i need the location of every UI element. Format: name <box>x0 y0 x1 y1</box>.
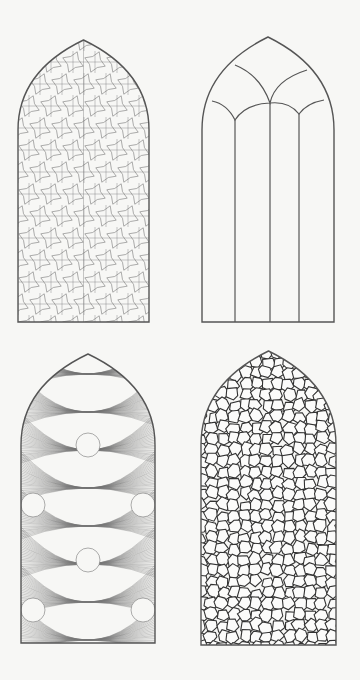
panel-geometric-tracery <box>0 0 180 340</box>
pointed-arch-window-interlaced-pattern <box>0 340 180 680</box>
panel-voronoi-glass <box>180 340 360 680</box>
pointed-arch-window-star-pattern <box>0 0 180 340</box>
window-outline <box>202 37 334 322</box>
panel-gothic-lancet <box>180 0 360 340</box>
pointed-arch-window-mullions <box>180 0 360 340</box>
panel-interlaced-tracery <box>0 340 180 680</box>
pointed-arch-window-voronoi-pattern <box>180 340 360 680</box>
